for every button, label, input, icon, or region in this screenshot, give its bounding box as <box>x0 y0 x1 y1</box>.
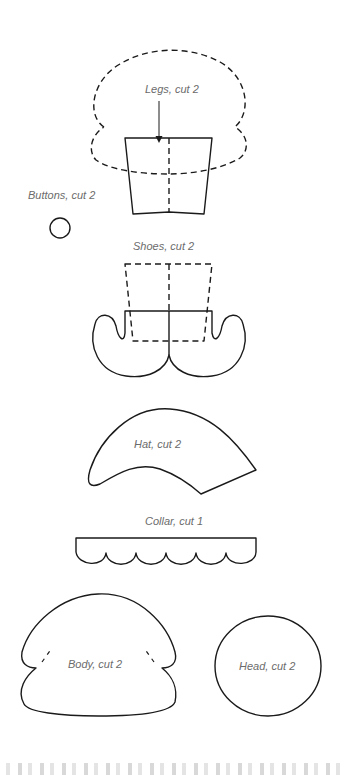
hat-label: Hat, cut 2 <box>134 438 181 450</box>
pattern-sheet <box>0 0 346 775</box>
legs-placement-dashed-outline <box>91 50 246 174</box>
body-label: Body, cut 2 <box>68 658 122 670</box>
arrowhead-icon <box>156 136 163 143</box>
hat-piece-outline <box>88 409 256 494</box>
shoes-label: Shoes, cut 2 <box>133 240 194 252</box>
body-dart-right <box>144 648 154 662</box>
button-piece-outline <box>50 218 70 238</box>
body-piece-outline <box>21 594 176 716</box>
collar-label: Collar, cut 1 <box>145 515 203 527</box>
head-label: Head, cut 2 <box>239 660 295 672</box>
bleed-through-strip <box>0 763 346 775</box>
collar-piece-outline <box>76 538 256 564</box>
body-dart-left <box>42 648 52 662</box>
legs-label: Legs, cut 2 <box>145 83 199 95</box>
buttons-label: Buttons, cut 2 <box>28 189 95 201</box>
